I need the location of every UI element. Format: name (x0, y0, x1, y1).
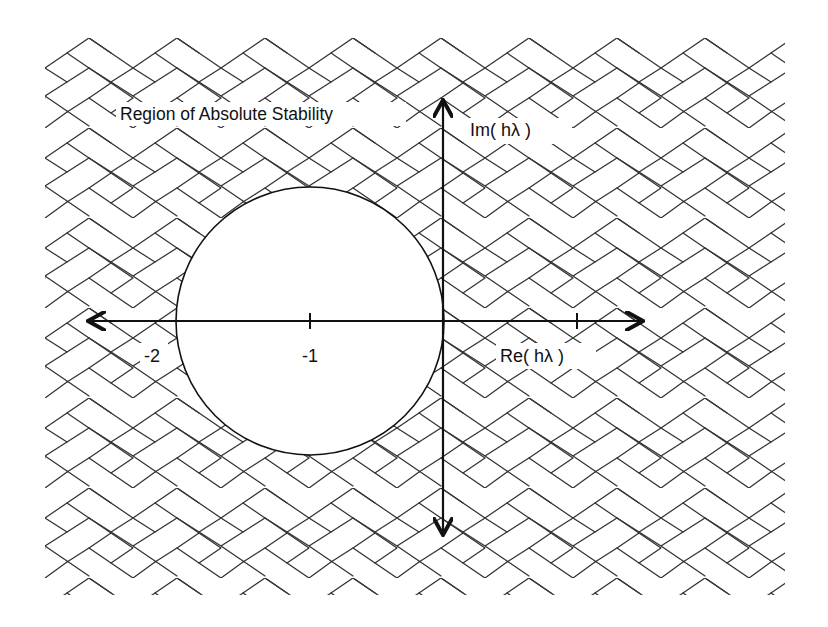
tick-label-minus-2: -2 (144, 346, 160, 366)
y-axis-label: Im( hλ ) (470, 120, 531, 140)
tick-label-minus-1: -1 (302, 346, 318, 366)
stability-region-diagram: Region of Absolute Stability Im( hλ ) Re… (0, 0, 828, 627)
diagram-title: Region of Absolute Stability (120, 104, 333, 124)
x-axis-label: Re( hλ ) (500, 346, 564, 366)
